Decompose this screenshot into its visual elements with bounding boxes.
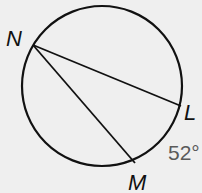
circle-diagram: N L M 52° [0,0,202,193]
point-label-m: M [128,170,147,193]
arc-measure-label: 52° [168,141,200,164]
point-label-n: N [6,26,22,51]
circle [22,6,182,166]
chord-NL [33,45,181,106]
point-label-l: L [184,100,196,125]
